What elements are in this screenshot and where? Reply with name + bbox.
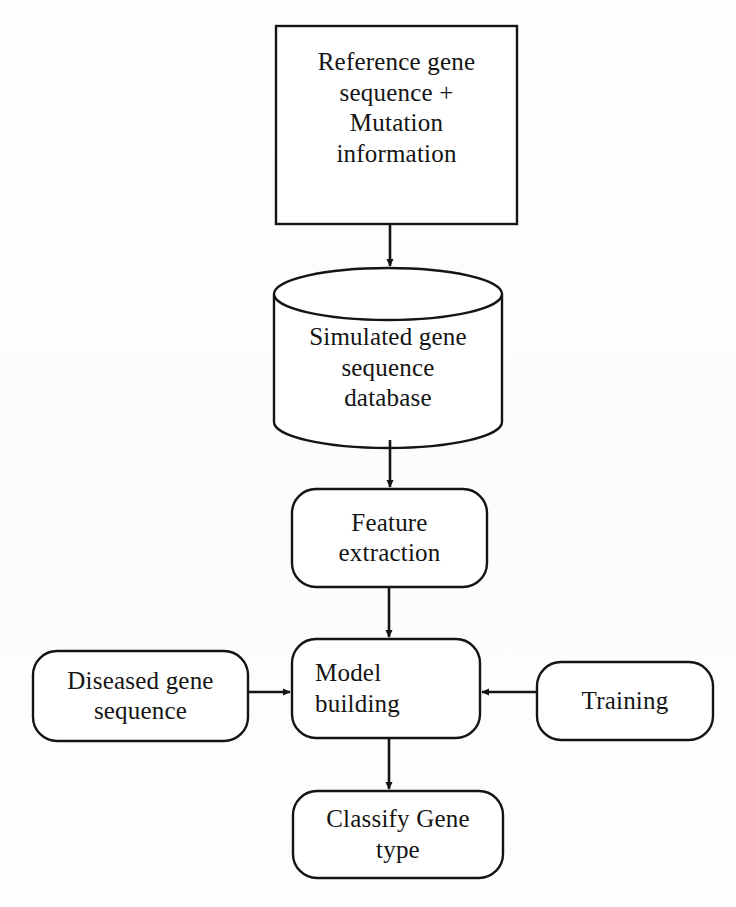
node-feature-extraction	[292, 489, 487, 587]
node-model-building	[292, 639, 480, 738]
node-simulated-database	[274, 268, 502, 448]
flowchart-page: Reference gene sequence + Mutation infor…	[0, 0, 736, 907]
reference-gene-rect	[276, 26, 517, 224]
diseased-gene-rect	[33, 651, 248, 741]
node-diseased-gene	[33, 651, 248, 741]
node-reference-gene	[276, 26, 517, 224]
cylinder-top-ellipse	[274, 268, 502, 320]
training-rect	[537, 662, 713, 740]
feature-extraction-rect	[292, 489, 487, 587]
classify-gene-rect	[293, 791, 503, 878]
node-classify-gene	[293, 791, 503, 878]
flowchart-canvas	[0, 0, 736, 907]
model-building-rect	[292, 639, 480, 738]
node-training	[537, 662, 713, 740]
